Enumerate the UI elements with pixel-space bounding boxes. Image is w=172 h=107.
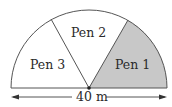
pen-2-label: Pen 2 — [71, 25, 106, 40]
arrow-left-icon — [11, 95, 19, 100]
arrow-right-icon — [159, 95, 167, 100]
dimension-label: 40 m — [76, 89, 108, 104]
pens-diagram: Pen 1 Pen 2 Pen 3 40 m — [0, 0, 172, 107]
pen-1-label: Pen 1 — [115, 57, 150, 72]
pen-3-label: Pen 3 — [30, 57, 65, 72]
